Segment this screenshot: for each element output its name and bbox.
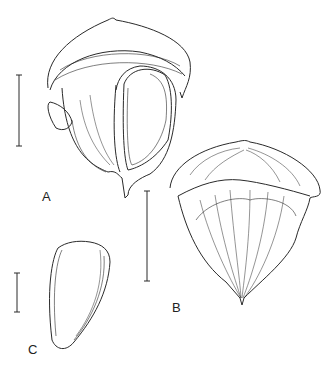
scale-bar-C — [14, 273, 20, 312]
botanical-illustration — [0, 0, 336, 365]
specimen-A-drawing — [48, 18, 191, 198]
panel-label-B: B — [172, 300, 181, 315]
panel-label-A: A — [42, 189, 51, 204]
specimen-B-drawing — [170, 141, 320, 306]
scale-bar-B — [144, 191, 150, 281]
scale-bar-A — [16, 75, 22, 146]
panel-label-C: C — [28, 342, 37, 357]
specimen-C-drawing — [50, 241, 110, 348]
